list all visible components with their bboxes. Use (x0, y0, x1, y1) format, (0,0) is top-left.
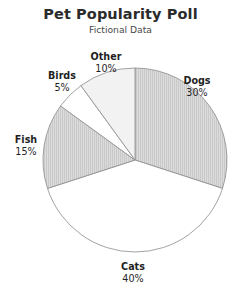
slice-label-value: 10% (95, 63, 116, 74)
pie-plot-area: Dogs30%Cats40%Fish15%Birds5%Other10% (0, 0, 241, 295)
slice-label-fish: Fish15% (15, 134, 38, 157)
slice-label-value: 30% (186, 87, 207, 98)
slice-label-birds: Birds5% (48, 70, 76, 93)
slice-label-name: Other (91, 51, 122, 62)
pie-chart-figure: Pet Popularity Poll Fictional Data Dogs3… (0, 0, 241, 295)
slice-label-name: Fish (15, 134, 38, 145)
slice-label-name: Cats (121, 261, 145, 272)
slice-label-dogs: Dogs30% (183, 75, 210, 98)
slice-label-name: Dogs (183, 75, 210, 86)
slice-label-name: Birds (48, 70, 76, 81)
slice-label-value: 5% (54, 82, 69, 93)
slice-label-value: 40% (122, 273, 143, 284)
slice-label-value: 15% (15, 146, 36, 157)
slice-label-cats: Cats40% (121, 261, 145, 284)
